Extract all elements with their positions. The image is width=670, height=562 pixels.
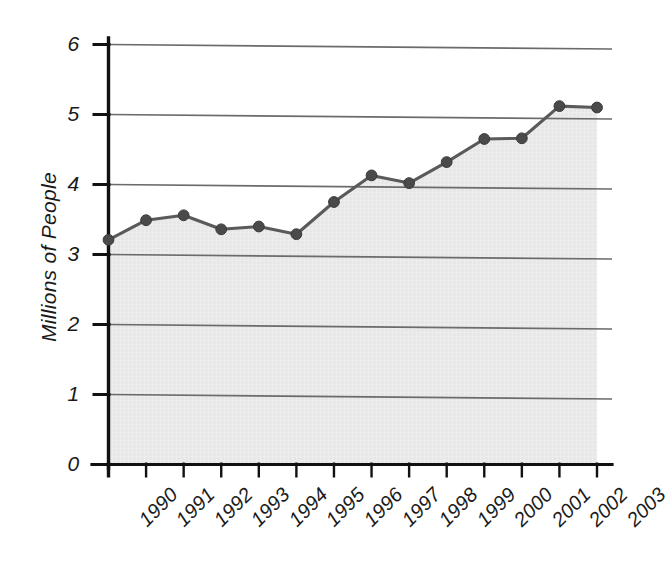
data-point-1997 [366,170,377,181]
gridline-y-6 [109,45,613,50]
data-point-1999 [441,157,452,168]
data-point-1998 [404,178,415,189]
data-point-2000 [479,134,490,145]
data-point-1995 [291,229,302,240]
data-point-1994 [253,221,264,232]
gridline-y-5 [109,115,613,120]
data-point-1993 [216,224,227,235]
data-point-2001 [516,133,527,144]
data-point-1991 [141,215,152,226]
y-tick-label-1: 1 [52,383,80,404]
data-point-2003 [592,102,603,113]
y-tick-label-2: 2 [52,313,80,334]
data-point-2002 [554,101,565,112]
data-point-1992 [178,210,189,221]
y-tick-label-0: 0 [52,453,80,474]
y-tick-label-6: 6 [52,33,80,54]
y-tick-label-3: 3 [52,243,80,264]
y-tick-label-4: 4 [52,173,80,194]
data-point-1990 [103,234,114,245]
y-tick-label-5: 5 [52,103,80,124]
data-point-1996 [329,197,340,208]
area-fill [109,106,598,464]
